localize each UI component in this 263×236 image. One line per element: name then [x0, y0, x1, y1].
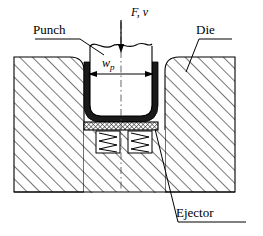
spring-left: [96, 131, 120, 153]
width-subscript: p: [110, 62, 115, 72]
width-symbol: w: [102, 56, 110, 70]
spring-right: [128, 131, 152, 153]
label-ejector: Ejector: [176, 206, 214, 219]
label-punch: Punch: [33, 23, 66, 36]
die-block-right: [165, 57, 235, 192]
label-die: Die: [196, 23, 215, 36]
label-punch-width: wp: [102, 57, 115, 72]
label-force-velocity: F, v: [131, 6, 148, 18]
forming-die-cross-section-figure: Punch Die Ejector F, v wp: [0, 0, 263, 236]
die-block-left: [14, 57, 84, 192]
